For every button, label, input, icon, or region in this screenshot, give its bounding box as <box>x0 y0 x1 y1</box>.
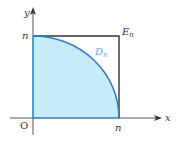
diagram-canvas: y n O n x En Dn <box>0 0 183 141</box>
disc-label-sub: n <box>103 51 108 59</box>
y-tick-label: n <box>22 30 28 41</box>
square-label-sub: n <box>129 31 134 39</box>
x-tick-label: n <box>115 122 121 133</box>
origin-label: O <box>20 120 28 131</box>
quarter-disc-region <box>33 36 119 118</box>
disc-label-main: D <box>94 46 103 57</box>
disc-label: Dn <box>94 46 108 59</box>
square-label: En <box>121 26 134 39</box>
x-axis-label: x <box>165 112 171 123</box>
y-axis-label: y <box>23 7 30 18</box>
